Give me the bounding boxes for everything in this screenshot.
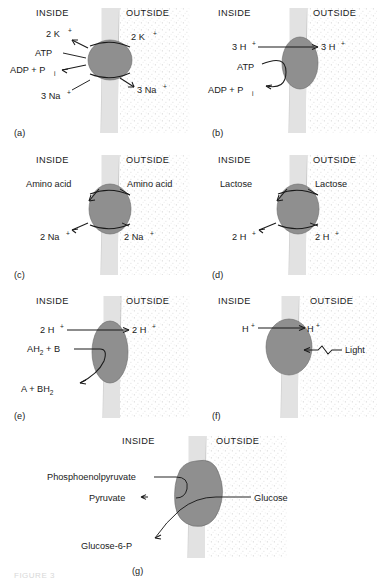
transporter-protein-a [88, 40, 132, 80]
k-inside-label-a: 2 K [46, 29, 61, 39]
k-outside-charge-a: + [153, 30, 157, 37]
adp-arrowhead-a [62, 69, 68, 73]
panel-c-amino-acid-symporter: INSIDE OUTSIDE Amino acid Amino acid 2 N… [0, 147, 190, 292]
outside-stipple-f [300, 296, 377, 418]
na-outside-charge-c: + [150, 230, 154, 237]
electron-acceptor-label-e: A + BH2 [21, 384, 54, 396]
na-outside-label-c: 2 Na [124, 232, 144, 242]
h-inside-label-f: H [242, 324, 249, 334]
outside-stipple-a [120, 8, 190, 133]
panel-id-e: (e) [14, 411, 25, 421]
h-outside-label-d: 2 H [315, 232, 329, 242]
inside-label-e: INSIDE [36, 296, 69, 306]
atp-leader-a [63, 53, 86, 58]
na-inside-label-c: 2 Na [40, 232, 60, 242]
bacteriorhodopsin-protein-f [266, 319, 312, 375]
adp-label-b: ADP + P [208, 85, 243, 95]
inside-label-g: INSIDE [122, 436, 155, 446]
na-inside-charge-c: + [66, 230, 70, 237]
inside-label-d: INSIDE [218, 155, 251, 165]
adp-pi-subscript-a: i [54, 70, 56, 77]
outside-label-c: OUTSIDE [126, 155, 169, 165]
outside-label-d: OUTSIDE [313, 155, 356, 165]
proton-inflow-arrowhead-d [259, 229, 265, 233]
panel-id-b: (b) [212, 128, 223, 138]
k-inside-charge-a: + [68, 27, 72, 34]
inside-label-a: INSIDE [36, 8, 69, 18]
lactose-inside-label-d: Lactose [220, 179, 252, 189]
h-inside-label-b: 3 H [232, 42, 246, 52]
panel-id-g: (g) [132, 566, 143, 576]
amino-acid-outside-label-c: Amino acid [127, 179, 172, 189]
inside-label-b: INSIDE [218, 8, 251, 18]
inside-label-f: INSIDE [218, 296, 251, 306]
electron-donor-label-e: AH2 + B [27, 344, 60, 356]
figure-caption: FIGURE 3 [14, 571, 55, 580]
pep-label-g: Phosphoenolpyruvate [47, 472, 136, 482]
na-inflow-arrowhead-c [72, 229, 78, 233]
pyruvate-arrowhead-g [141, 495, 148, 500]
outside-label-e: OUTSIDE [126, 296, 169, 306]
outside-label-g: OUTSIDE [216, 436, 259, 446]
h-inside-label-d: 2 H [232, 232, 246, 242]
panel-g-pts-group-translocation: INSIDE OUTSIDE Phosphoenolpyruvate Pyruv… [0, 428, 377, 580]
h-inside-charge-f: + [251, 322, 255, 329]
panel-id-a: (a) [14, 128, 25, 138]
lactose-outside-label-d: Lactose [315, 179, 347, 189]
panel-f-light-driven-proton-pump: INSIDE OUTSIDE H + H + Light (f) [190, 288, 377, 433]
outside-label-b: OUTSIDE [313, 8, 356, 18]
outside-label-a: OUTSIDE [126, 8, 169, 18]
h-inside-charge-d: + [252, 230, 256, 237]
adp-pi-subscript-b: i [252, 90, 254, 97]
panel-a-sodium-potassium-atpase: INSIDE OUTSIDE 2 K + 2 K + ATP ADP + P i… [0, 0, 190, 150]
h-outside-label-e: 2 H [132, 325, 146, 335]
h-outside-charge-b: + [341, 40, 345, 47]
na-inflow-arrow-c [72, 223, 88, 230]
h-outside-charge-f: + [316, 322, 320, 329]
panel-d-lactose-symporter: INSIDE OUTSIDE Lactose Lactose 2 H + 2 H… [190, 147, 377, 292]
panel-e-redox-proton-pump: INSIDE OUTSIDE 2 H + 2 H + AH2 + B A + B… [0, 288, 190, 433]
h-outside-label-b: 3 H [321, 42, 335, 52]
glucose-label-g: Glucose [254, 493, 288, 503]
g6p-arrowhead-g [155, 535, 161, 539]
na-outside-charge-a: + [163, 83, 167, 90]
h-outside-label-f: H [307, 324, 314, 334]
h-outside-charge-e: + [152, 323, 156, 330]
panel-id-d: (d) [212, 270, 223, 280]
amino-acid-inside-label-c: Amino acid [26, 179, 71, 189]
k-outside-label-a: 2 K [131, 32, 146, 42]
light-label-f: Light [345, 345, 365, 355]
inside-label-c: INSIDE [36, 155, 69, 165]
atp-label-b: ATP [237, 62, 254, 72]
h-inside-label-e: 2 H [40, 325, 54, 335]
na-inside-charge-a: + [67, 89, 71, 96]
h-inside-charge-b: + [252, 40, 256, 47]
panel-id-c: (c) [14, 270, 25, 280]
atp-label-a: ATP [35, 48, 52, 58]
na-inside-label-a: 3 Na [41, 91, 61, 101]
na-inflow-leader-a [72, 80, 90, 90]
proton-inflow-arrow-d [259, 223, 276, 230]
h-outside-charge-d: + [335, 230, 339, 237]
redox-transfer-arrowhead-e [80, 380, 86, 384]
panel-id-f: (f) [212, 411, 221, 421]
panel-b-atp-synthase: INSIDE OUTSIDE 3 H + 3 H + ATP ADP + P i… [190, 0, 377, 150]
adp-label-a: ADP + P [10, 65, 45, 75]
g6p-label-g: Glucose-6-P [81, 541, 132, 551]
pyruvate-label-g: Pyruvate [89, 493, 125, 503]
outside-label-f: OUTSIDE [310, 296, 353, 306]
transport-figure: INSIDE OUTSIDE 2 K + 2 K + ATP ADP + P i… [0, 0, 377, 580]
pts-enzyme-protein-g [175, 460, 223, 526]
na-outside-label-a: 3 Na [137, 85, 157, 95]
outside-stipple-e [120, 296, 190, 418]
outside-stipple-b [308, 8, 377, 133]
h-inside-charge-e: + [60, 323, 64, 330]
